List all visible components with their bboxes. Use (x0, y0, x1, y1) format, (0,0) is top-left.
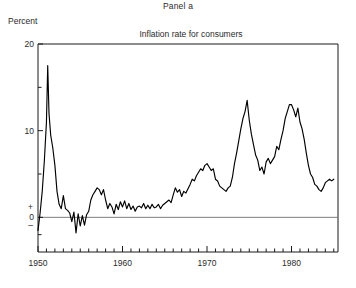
x-tick-label: 1980 (282, 258, 301, 268)
y-positive-sign-label: + (28, 202, 33, 212)
data-series-inflation (38, 66, 334, 233)
y-negative-sign-label: – (28, 220, 33, 230)
inflation-line-chart: 01020 1950196019701980 +– (0, 0, 356, 288)
x-axis-ticks (38, 246, 338, 252)
y-tick-label: 20 (25, 39, 35, 49)
y-axis-tick-labels: 01020 (25, 39, 35, 222)
figure-panel-a: Panel a Percent Inflation rate for consu… (0, 0, 356, 288)
x-tick-label: 1970 (198, 258, 217, 268)
x-axis-tick-labels: 1950196019701980 (29, 258, 302, 268)
x-tick-label: 1950 (29, 258, 48, 268)
x-tick-label: 1960 (113, 258, 132, 268)
y-tick-label: 10 (25, 126, 35, 136)
